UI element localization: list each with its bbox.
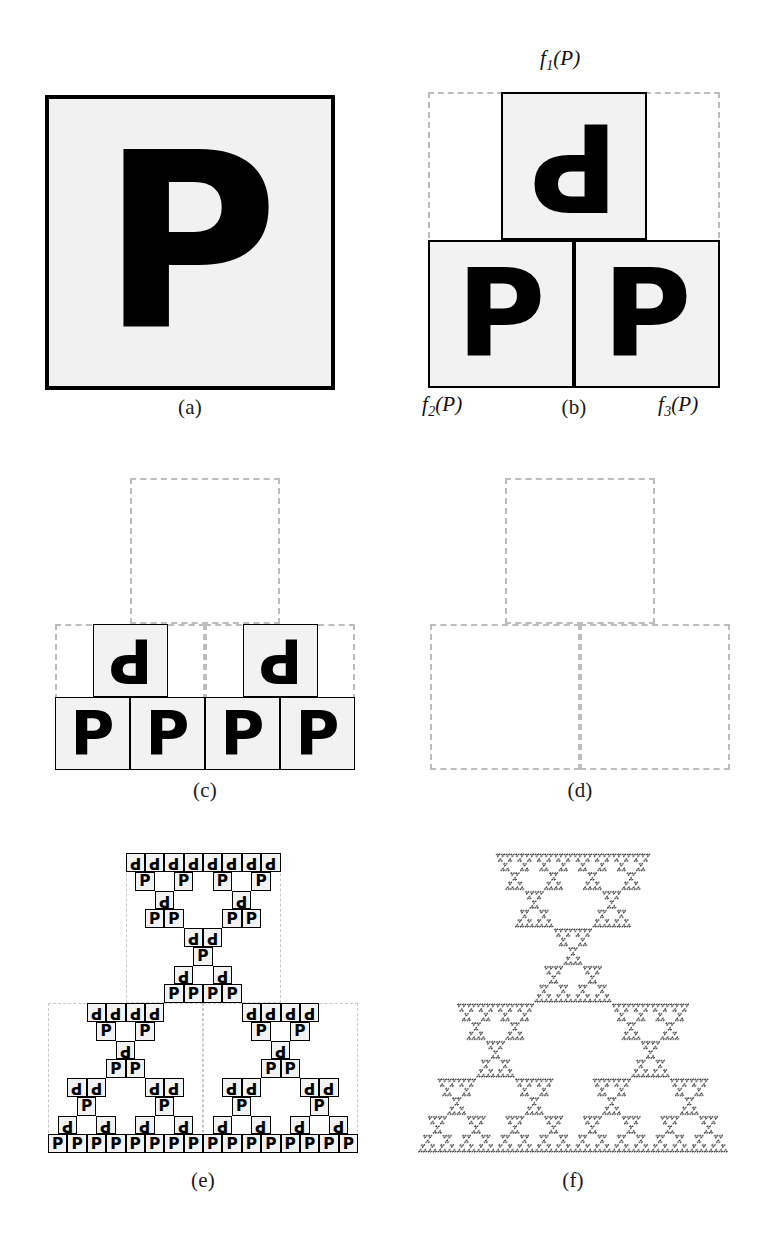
letter-glyph: P (68, 1079, 85, 1096)
panel-c-tile: P (243, 624, 318, 697)
letter-glyph: P (117, 1042, 134, 1059)
letter-glyph: P (185, 929, 202, 946)
letter-glyph: P (320, 1079, 337, 1096)
panel-c-tile: P (130, 697, 205, 770)
panel-e-tile: P (222, 909, 241, 928)
panel-e-tile: P (281, 1059, 300, 1078)
letter-glyph: P (281, 698, 354, 769)
panel-e-tile: P (222, 1078, 241, 1097)
letter-glyph: P (94, 625, 167, 696)
letter-glyph: P (146, 1079, 163, 1096)
letter-glyph: P (165, 854, 182, 871)
caption-f: (f) (418, 1168, 728, 1193)
panel-e-tile: P (193, 947, 212, 966)
dashed-guide-outline (580, 624, 730, 770)
letter-glyph: P (291, 1117, 308, 1134)
panel-e-tile: P (116, 1041, 135, 1060)
letter-glyph: P (165, 985, 182, 1002)
panel-e-tile: P (145, 1078, 164, 1097)
panel-e-tile: P (77, 1097, 96, 1116)
letter-glyph: P (243, 1135, 260, 1152)
letter-glyph: P (576, 242, 718, 386)
panel-e-tile: P (251, 1022, 270, 1041)
letter-glyph: P (127, 1135, 144, 1152)
figure-root: P (a) PPP f1(P) f2(P) f3(P) (b) PPPPPP (… (0, 0, 760, 1246)
letter-glyph: P (131, 698, 204, 769)
panel-e-tile: P (261, 1059, 280, 1078)
dashed-guide-outline (130, 478, 280, 624)
panel-f-attractor-canvas (418, 853, 728, 1153)
panel-e-tile: P (213, 872, 232, 891)
letter-glyph: P (262, 1135, 279, 1152)
letter-glyph: P (194, 948, 211, 965)
letter-glyph: P (156, 892, 173, 909)
letter-glyph: P (262, 1004, 279, 1021)
letter-glyph: P (185, 854, 202, 871)
caption-a: (a) (45, 395, 335, 420)
letter-glyph: P (223, 910, 240, 927)
letter-glyph: P (282, 1135, 299, 1152)
panel-e-tile: P (87, 1134, 106, 1153)
panel-e-tile: P (290, 1116, 309, 1135)
panel-e-tile: P (213, 1116, 232, 1135)
letter-glyph: P (78, 1098, 95, 1115)
letter-glyph: P (136, 1023, 153, 1040)
letter-glyph: P (223, 1079, 240, 1096)
panel-e-tile: P (339, 1134, 358, 1153)
letter-glyph: P (68, 1135, 85, 1152)
letter-glyph: P (107, 1004, 124, 1021)
letter-glyph: P (252, 1117, 269, 1134)
letter-glyph: P (282, 1060, 299, 1077)
label-f1-arg: (P) (553, 46, 580, 70)
letter-glyph: P (243, 1004, 260, 1021)
panel-e-tile: P (184, 928, 203, 947)
panel-b: PPP (428, 92, 720, 388)
letter-glyph: P (233, 1098, 250, 1115)
panel-e-tile: P (96, 1116, 115, 1135)
panel-e-tile: P (184, 984, 203, 1003)
panel-e-tile: P (164, 1078, 183, 1097)
panel-e-tile: P (329, 1116, 348, 1135)
panel-c: PPPPPP (55, 478, 355, 770)
panel-e-tile: P (242, 853, 261, 872)
letter-glyph: P (223, 1135, 240, 1152)
panel-e-tile: P (174, 1116, 193, 1135)
letter-glyph: P (88, 1079, 105, 1096)
panel-e-tile: P (48, 1134, 67, 1153)
caption-e: (e) (48, 1168, 358, 1193)
letter-glyph: P (206, 698, 279, 769)
letter-glyph: P (185, 985, 202, 1002)
panel-e-tile: P (174, 966, 193, 985)
letter-glyph: P (262, 1060, 279, 1077)
letter-glyph: P (49, 1135, 66, 1152)
letter-glyph: P (175, 1117, 192, 1134)
label-f2-fname: f (422, 392, 428, 416)
letter-glyph: P (244, 625, 317, 696)
letter-glyph: P (340, 1135, 357, 1152)
panel-e-tile: P (222, 853, 241, 872)
letter-glyph: P (146, 854, 163, 871)
letter-glyph: P (204, 985, 221, 1002)
letter-glyph: P (97, 1117, 114, 1134)
panel-e-tile: P (251, 872, 270, 891)
letter-glyph: P (243, 854, 260, 871)
letter-glyph: P (291, 1023, 308, 1040)
letter-glyph: P (88, 1004, 105, 1021)
panel-e-tile: P (203, 853, 222, 872)
panel-e-tile: P (203, 984, 222, 1003)
letter-glyph: P (272, 1042, 289, 1059)
letter-glyph: P (185, 1135, 202, 1152)
panel-e-tile: P (106, 1059, 125, 1078)
panel-b-tile-f3: P (574, 240, 720, 388)
panel-e-tile: P (222, 1134, 241, 1153)
letter-glyph: P (165, 1135, 182, 1152)
panel-e-tile: P (126, 1003, 145, 1022)
letter-glyph: P (204, 929, 221, 946)
panel-e-tile: P (184, 853, 203, 872)
panel-e-tile: P (164, 853, 183, 872)
letter-glyph: P (59, 1117, 76, 1134)
letter-glyph: P (243, 910, 260, 927)
letter-glyph: P (330, 1117, 347, 1134)
panel-e-tile: P (242, 1003, 261, 1022)
letter-glyph: P (146, 1135, 163, 1152)
